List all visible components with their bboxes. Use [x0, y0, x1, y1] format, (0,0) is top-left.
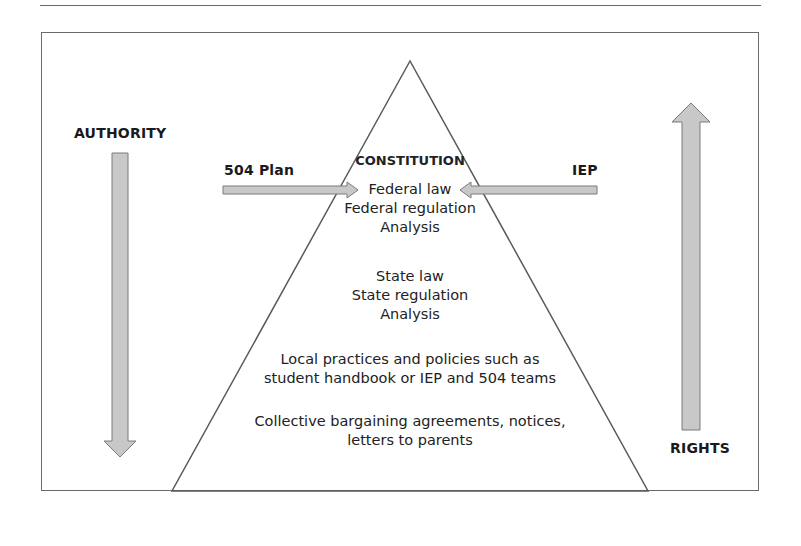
- tier-local: Local practices and policies such as stu…: [210, 350, 610, 388]
- rights-label: RIGHTS: [670, 440, 730, 456]
- tier-state: State law State regulation Analysis: [210, 267, 610, 324]
- tier-line: Federal regulation: [210, 199, 610, 218]
- tier-line: Analysis: [210, 218, 610, 237]
- tier-line: Local practices and policies such as: [210, 350, 610, 369]
- tier-line: State law: [210, 267, 610, 286]
- tier-line: Federal law: [210, 180, 610, 199]
- tier-line: State regulation: [210, 286, 610, 305]
- constitution-label: CONSTITUTION: [210, 151, 610, 170]
- tier-line: Analysis: [210, 305, 610, 324]
- authority-down-arrow-icon: [104, 153, 136, 457]
- authority-label: AUTHORITY: [74, 125, 166, 141]
- tier-line: student handbook or IEP and 504 teams: [210, 369, 610, 388]
- tier-line: Collective bargaining agreements, notice…: [210, 412, 610, 431]
- tier-line: letters to parents: [210, 431, 610, 450]
- tier-federal: Federal law Federal regulation Analysis: [210, 180, 610, 237]
- rights-up-arrow-icon: [672, 103, 710, 430]
- tier-collective: Collective bargaining agreements, notice…: [210, 412, 610, 450]
